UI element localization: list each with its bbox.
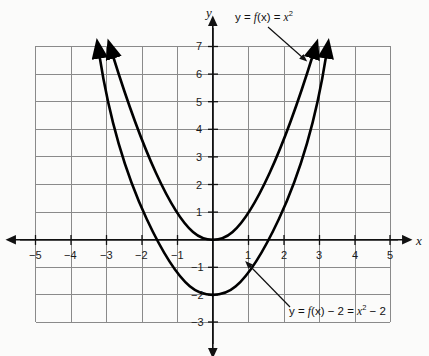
graph-figure: −5 −4 −3 −2 −1 1 2 3 4 5 7 6 5 4 3 2 1 −… — [0, 0, 429, 356]
y-tick-label-4: 4 — [196, 124, 202, 135]
x-tick-label--4: −4 — [64, 250, 77, 261]
curve2-prefix: y = — [289, 305, 308, 317]
curve-label-x-squared-minus-2: y = f(x) − 2 = x2 − 2 — [289, 306, 386, 318]
curve2-arg: (x) — [311, 305, 324, 317]
y-tick-label-2: 2 — [196, 180, 202, 191]
x-tick-label-1: 1 — [245, 250, 251, 261]
x-axis-label: x — [416, 234, 422, 247]
x-tick-label--1: −1 — [171, 250, 184, 261]
y-tick-label--3: −3 — [191, 317, 204, 328]
x-tick-label-4: 4 — [352, 250, 358, 261]
curve1-expr-exp: 2 — [289, 9, 293, 18]
curve1-prefix: y = — [235, 11, 254, 23]
curve1-eq: = — [270, 11, 283, 23]
y-tick-label-6: 6 — [196, 69, 202, 80]
curve2-tail: − 2 — [366, 305, 386, 317]
y-tick-label-1: 1 — [196, 207, 202, 218]
x-tick-label--2: −2 — [135, 250, 148, 261]
y-tick-label-5: 5 — [196, 97, 202, 108]
x-tick-label-5: 5 — [387, 250, 393, 261]
x-tick-label-3: 3 — [316, 250, 322, 261]
annotation-leader-top — [268, 27, 302, 57]
y-axis-label: y — [206, 6, 212, 19]
y-tick-label--1: −1 — [191, 262, 204, 273]
curve-label-x-squared: y = f(x) = x2 — [235, 12, 293, 24]
y-tick-label-7: 7 — [196, 41, 202, 52]
x-tick-label--3: −3 — [100, 250, 113, 261]
curve2-minus: − 2 = — [324, 305, 357, 317]
curve1-arg: (x) — [257, 11, 270, 23]
x-tick-label--5: −5 — [29, 250, 42, 261]
x-tick-label-2: 2 — [281, 250, 287, 261]
y-tick-label--2: −2 — [191, 290, 204, 301]
y-tick-label-3: 3 — [196, 152, 202, 163]
